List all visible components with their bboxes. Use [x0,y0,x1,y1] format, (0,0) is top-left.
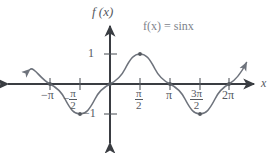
point-neg-pi [48,82,52,86]
x-tick-label-neg-pi: −π [41,89,54,101]
x-tick-label-three-pi-over-2: 3π2 [190,88,203,111]
y-axis-label: f (x) [92,5,113,18]
fraction-denominator: 2 [190,99,203,111]
fraction: π2 [135,88,143,111]
fraction: 3π2 [190,88,203,111]
fraction-numerator: 3π [190,88,203,99]
point-min-left [78,112,82,116]
x-tick-label-pi: π [166,89,172,101]
point-max [138,52,142,56]
y-tick-label-one: 1 [88,47,94,59]
fraction-denominator: 2 [69,99,77,111]
fraction-numerator: π [135,88,143,99]
x-axis-label: x [261,77,266,89]
point-min-right [198,112,202,116]
y-tick-label-neg-one: −1 [83,107,96,119]
x-tick-label-two-pi: 2π [222,89,234,101]
fraction: π2 [69,88,77,111]
graph-canvas [0,0,280,153]
sine-graph-figure: f (x) x f(x) = sinx 1 −1 −π −π2 π2 π 3π2… [0,0,280,153]
x-tick-label-neg-pi-over-2: −π2 [63,88,77,111]
function-equation-label: f(x) = sinx [143,20,194,32]
x-tick-label-pi-over-2: π2 [135,88,143,111]
point-origin [108,82,112,86]
point-pi [168,82,172,86]
point-two-pi [227,82,231,86]
fraction-denominator: 2 [135,99,143,111]
fraction-numerator: π [69,88,77,99]
